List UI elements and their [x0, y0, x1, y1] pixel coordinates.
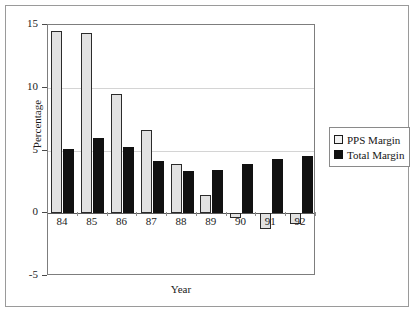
bar-pps-margin-88 — [171, 164, 182, 213]
x-tick-label: 90 — [226, 215, 256, 227]
y-tick-label: 15 — [0, 18, 38, 29]
y-tick-mark — [42, 275, 47, 276]
x-axis-label: Year — [47, 283, 315, 295]
bar-total-margin-87 — [153, 161, 164, 214]
x-tick-label: 84 — [47, 215, 77, 227]
x-tick-label: 91 — [255, 215, 285, 227]
bar-total-margin-88 — [183, 171, 194, 213]
bar-pps-margin-89 — [200, 195, 211, 213]
legend-item-total-margin: Total Margin — [334, 147, 404, 162]
y-axis-label: Percentage — [31, 79, 43, 169]
x-tick-label: 88 — [166, 215, 196, 227]
x-tick-label: 85 — [77, 215, 107, 227]
legend-label: PPS Margin — [347, 134, 400, 146]
bar-total-margin-90 — [242, 164, 253, 213]
bar-total-margin-85 — [93, 138, 104, 213]
y-tick-label: 0 — [0, 206, 38, 217]
x-tick-label: 89 — [196, 215, 226, 227]
chart-legend: PPS MarginTotal Margin — [329, 127, 410, 167]
bar-total-margin-92 — [302, 156, 313, 214]
legend-item-pps-margin: PPS Margin — [334, 132, 404, 147]
x-tick-mark — [315, 212, 316, 216]
plot-area — [47, 24, 315, 275]
legend-swatch-icon — [334, 135, 343, 144]
y-tick-label: -5 — [0, 269, 38, 280]
bar-pps-margin-87 — [141, 130, 152, 213]
y-tick-label: 5 — [0, 144, 38, 155]
bar-total-margin-91 — [272, 159, 283, 213]
legend-swatch-icon — [334, 150, 343, 159]
y-tick-label: 10 — [0, 81, 38, 92]
x-tick-label: 87 — [136, 215, 166, 227]
x-tick-label: 86 — [106, 215, 136, 227]
bar-total-margin-84 — [63, 149, 74, 213]
bar-pps-margin-84 — [51, 31, 62, 213]
bar-pps-margin-85 — [81, 33, 92, 214]
bar-total-margin-89 — [212, 170, 223, 213]
x-tick-label: 92 — [285, 215, 315, 227]
bar-pps-margin-86 — [111, 94, 122, 213]
bar-total-margin-86 — [123, 147, 134, 214]
legend-label: Total Margin — [347, 149, 404, 161]
chart-figure: Percentage -5051015 848586878889909192 Y… — [0, 0, 415, 313]
